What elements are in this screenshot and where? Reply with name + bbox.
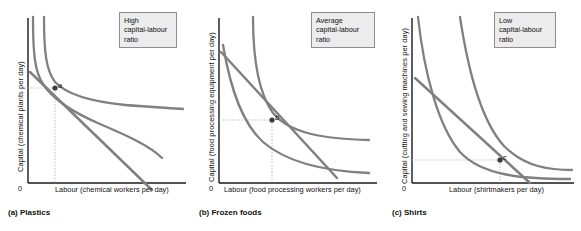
callout-shirts: Low capital-labour ratio (494, 12, 556, 48)
y-axis-label-shirts: Capital (cutting and sewing machines per… (400, 28, 409, 184)
callout-line-3: ratio (124, 35, 172, 44)
x-axis-label-frozen-foods: Labour (food processing workers per day) (224, 185, 361, 194)
y-axis-label-frozen-foods: Capital (food processing equipment per d… (207, 32, 216, 182)
tangency-label-a: a (58, 81, 62, 90)
callout-line-1: High (124, 16, 172, 25)
origin-label-shirts: 0 (402, 184, 406, 193)
callout-line-3: ratio (499, 35, 551, 44)
panel-plastics: a Capital (chemical plants per day) 0 La… (0, 0, 193, 231)
x-axis-label-shirts: Labour (shirtmakers per day) (449, 185, 544, 194)
isoquant-inner (223, 45, 369, 173)
callout-line-2: capital-labour (499, 25, 551, 34)
guide-lines-c (412, 160, 500, 183)
guide-lines-a (28, 88, 55, 183)
callout-line-1: Average (316, 16, 370, 25)
panel-caption-shirts: (c) Shirts (392, 208, 427, 217)
callout-line-2: capital-labour (316, 25, 370, 34)
callout-line-2: capital-labour (124, 25, 172, 34)
isocost-line (30, 72, 152, 190)
isocost-line (415, 78, 530, 183)
tangency-point-c (497, 157, 502, 162)
panel-caption-frozen-foods: (b) Frozen foods (199, 208, 262, 217)
origin-label-frozen-foods: 0 (209, 184, 213, 193)
origin-label-plastics: 0 (18, 184, 22, 193)
callout-line-3: ratio (316, 35, 370, 44)
callout-plastics: High capital-labour ratio (119, 12, 177, 48)
x-axis-label-plastics: Labour (chemical workers per day) (55, 185, 169, 194)
tangency-label-b: b (275, 113, 279, 122)
panel-frozen-foods: b Capital (food processing equipment per… (191, 0, 384, 231)
tangency-label-c: c (503, 153, 507, 162)
tangency-point-a (52, 85, 57, 90)
tangency-point-b (269, 117, 274, 122)
callout-line-1: Low (499, 16, 551, 25)
y-axis-label-plastics: Capital (chemical plants per day) (16, 61, 25, 172)
guide-lines-b (219, 120, 272, 183)
callout-frozen-foods: Average capital-labour ratio (311, 12, 375, 48)
panel-caption-plastics: (a) Plastics (8, 208, 50, 217)
panel-shirts: c Capital (cutting and sewing machines p… (384, 0, 577, 231)
